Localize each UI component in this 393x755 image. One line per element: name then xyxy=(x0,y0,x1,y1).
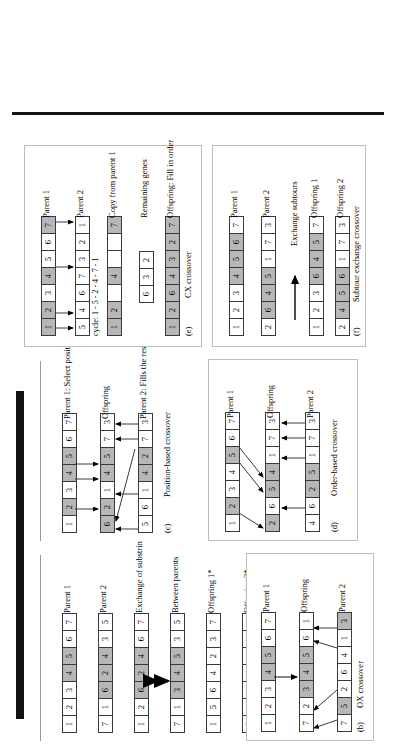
panel-e-arrows xyxy=(25,146,201,346)
gene-cell: 6 xyxy=(206,681,221,699)
gene-cell: 4 xyxy=(206,664,221,682)
gene-cell: 3 xyxy=(335,216,350,234)
page-scan-edge xyxy=(12,112,384,115)
panel-b-ox: 1 2 3 4 5 6 7 Parent 1 7 2 3 4 5 6 1 Off… xyxy=(246,553,374,741)
panel-a-row-offspring1: 1 5 6 4 2 3 7 xyxy=(206,614,221,733)
page-edge-rule-top xyxy=(16,391,24,719)
panel-c-position-based: 1 2 3 4 5 6 7 Parent 1: Select positions… xyxy=(40,361,200,541)
gene-cell: 7 xyxy=(170,715,185,733)
gene-cell: 2 xyxy=(206,647,221,665)
gene-cell: 5 xyxy=(170,647,185,665)
panel-b-caption: (b) xyxy=(355,722,365,732)
panel-f-row-offspring1: 1 2 3 6 4 5 7 xyxy=(309,217,324,336)
panel-f-row-offspring2: 2 4 5 6 1 7 3 xyxy=(335,217,350,336)
panel-e-name: CX crossover xyxy=(183,251,193,298)
panel-c-name: Position-based crossover xyxy=(162,412,172,497)
panel-b-arrows xyxy=(247,554,373,740)
gene-cell: 6 xyxy=(335,267,350,285)
gene-cell: 4 xyxy=(170,664,185,682)
panel-f-caption: (f) xyxy=(351,328,361,337)
gene-cell: 3 xyxy=(170,630,185,648)
gene-cell: 4 xyxy=(335,301,350,319)
figure-root: 1 2 3 4 5 6 7 Parent 1 7 1 6 2 4 3 5 Par… xyxy=(0,0,393,755)
gene-cell: 5 xyxy=(335,284,350,302)
panel-e-caption: (e) xyxy=(183,327,193,336)
figure-canvas: 1 2 3 4 5 6 7 Parent 1 7 1 6 2 4 3 5 Par… xyxy=(0,0,393,755)
panel-f-name: Subtour exchange crossover xyxy=(351,206,361,302)
panel-c-arrows xyxy=(40,361,200,541)
row-label-offspring1: Offspring 1 xyxy=(309,179,319,218)
gene-cell: 3 xyxy=(309,284,324,302)
row-label-offspring2: Offspring 2 xyxy=(335,179,345,218)
gene-cell: 5 xyxy=(206,698,221,716)
panel-b-name: OX crossover xyxy=(355,661,365,708)
panel-e-cx: 1 2 3 4 5 6 7 Parent 1 5 4 6 7 3 2 1 Par… xyxy=(24,145,202,347)
gene-cell: 7 xyxy=(335,233,350,251)
gene-cell: 1 xyxy=(309,318,324,336)
panel-d-name: Order-based crossover xyxy=(329,419,339,496)
gene-cell: 2 xyxy=(309,301,324,319)
gene-cell: 1 xyxy=(335,250,350,268)
row-label-between-parents: Between parents xyxy=(170,557,180,613)
gene-cell: 1 xyxy=(170,698,185,716)
row-label-offspring1: Offspring 1* xyxy=(206,569,216,613)
panel-d-caption: (d) xyxy=(329,522,339,532)
gene-cell: 7 xyxy=(309,216,324,234)
gene-cell: 7 xyxy=(206,613,221,631)
gene-cell: 1 xyxy=(206,715,221,733)
panel-f-subtour-exchange: 1 2 3 4 5 6 7 Parent 1 2 6 4 5 1 7 3 Par… xyxy=(212,145,366,347)
gene-cell: 3 xyxy=(206,630,221,648)
panel-d-order-based: 1 2 3 4 5 6 7 Parent 1 2 6 5 4 1 7 3 Off… xyxy=(208,359,358,541)
gene-cell: 5 xyxy=(170,613,185,631)
gene-cell: 4 xyxy=(309,250,324,268)
gene-cell: 6 xyxy=(309,267,324,285)
gene-cell: 3 xyxy=(170,681,185,699)
panel-a-row-between-parents: 7 1 3 4 5 3 5 xyxy=(170,614,185,733)
panel-c-caption: (c) xyxy=(162,524,172,533)
gene-cell: 2 xyxy=(335,318,350,336)
gene-cell: 5 xyxy=(309,233,324,251)
